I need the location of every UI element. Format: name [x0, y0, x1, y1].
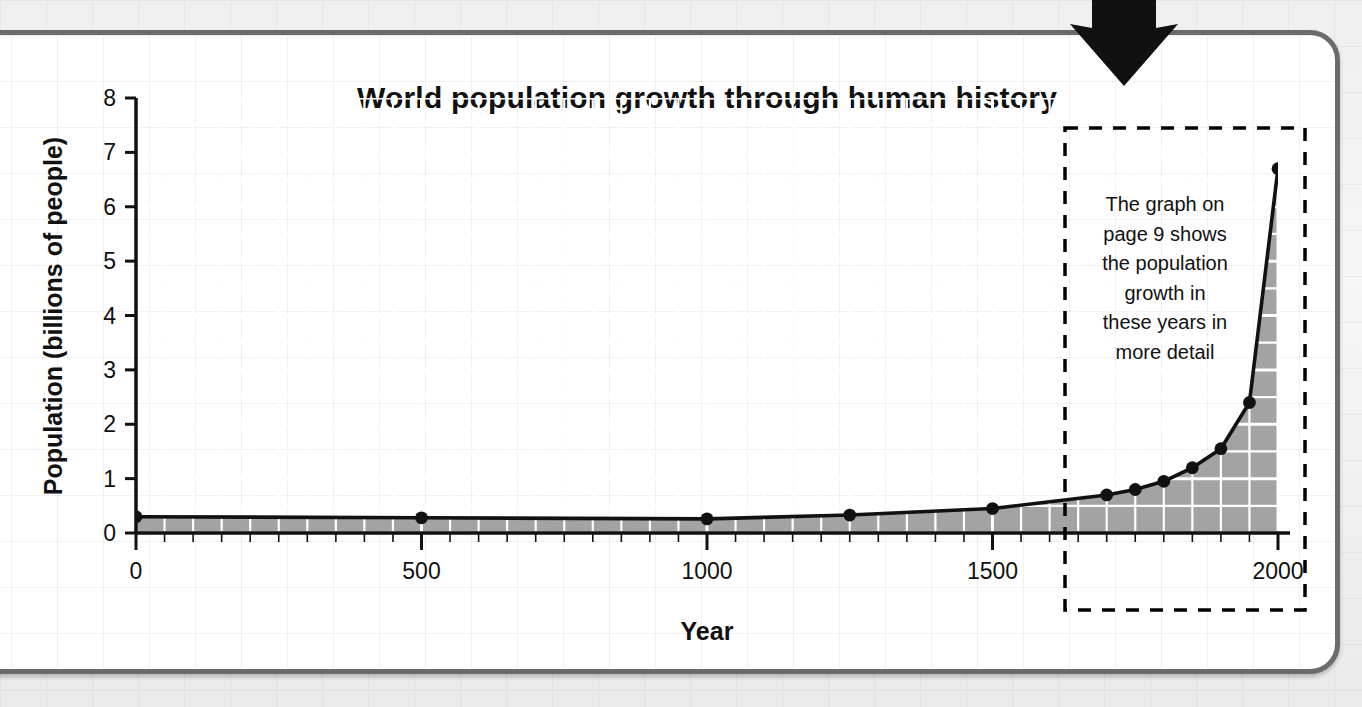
detail-callout-text: The graph onpage 9 showsthe populationgr… — [1102, 193, 1228, 363]
data-point — [1100, 489, 1113, 502]
data-point — [1243, 396, 1256, 409]
y-tick-label: 2 — [103, 411, 116, 437]
data-point — [1272, 162, 1285, 175]
x-tick-label: 500 — [402, 558, 440, 584]
y-axis-ticks: 012345678 — [103, 85, 136, 546]
data-point — [1215, 442, 1228, 455]
y-tick-label: 8 — [103, 85, 116, 111]
callout-line: growth in — [1124, 282, 1205, 304]
x-tick-label: 2000 — [1252, 558, 1303, 584]
y-axis-label: Population (billions of people) — [39, 137, 67, 495]
y-tick-label: 0 — [103, 520, 116, 546]
y-tick-label: 4 — [103, 303, 116, 329]
callout-line: the population — [1102, 252, 1228, 274]
population-chart: World population growth through human hi… — [0, 0, 1362, 707]
x-tick-label: 0 — [130, 558, 143, 584]
data-point — [986, 502, 999, 515]
x-tick-label: 1500 — [967, 558, 1018, 584]
data-point — [843, 509, 856, 522]
y-tick-label: 6 — [103, 194, 116, 220]
data-point — [701, 512, 714, 525]
callout-line: The graph on — [1106, 193, 1225, 215]
x-axis-label: Year — [681, 617, 734, 645]
arrow-down-icon — [1068, 0, 1180, 88]
callout-line: more detail — [1116, 341, 1215, 363]
data-point — [415, 511, 428, 524]
data-point — [1129, 483, 1142, 496]
data-point — [1186, 461, 1199, 474]
y-tick-label: 1 — [103, 466, 116, 492]
x-axis-ticks: 0500100015002000 — [130, 533, 1304, 584]
data-point — [1157, 475, 1170, 488]
callout-line: these years in — [1103, 311, 1228, 333]
y-tick-label: 3 — [103, 357, 116, 383]
y-tick-label: 7 — [103, 139, 116, 165]
x-tick-label: 1000 — [681, 558, 732, 584]
callout-line: page 9 shows — [1103, 223, 1226, 245]
y-tick-label: 5 — [103, 248, 116, 274]
textbook-page: World population growth through human hi… — [0, 0, 1362, 707]
